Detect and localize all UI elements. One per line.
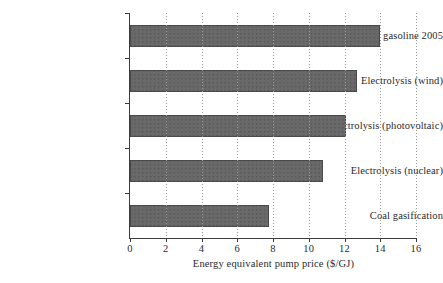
horizontal-bar-chart: 0246810121416 U.S. gasoline 2005Electrol… bbox=[0, 0, 443, 283]
x-tick-label-8: 8 bbox=[253, 243, 293, 254]
gridline-2 bbox=[166, 13, 167, 238]
x-tick-10 bbox=[309, 238, 310, 242]
gridline-6 bbox=[237, 13, 238, 238]
bar bbox=[130, 70, 357, 92]
plot-area bbox=[130, 13, 416, 238]
x-tick-8 bbox=[273, 238, 274, 242]
x-tick-4 bbox=[202, 238, 203, 242]
bar bbox=[130, 25, 380, 47]
x-tick-label-4: 4 bbox=[182, 243, 222, 254]
x-tick-12 bbox=[345, 238, 346, 242]
x-tick-label-16: 16 bbox=[396, 243, 436, 254]
gridline-14 bbox=[380, 13, 381, 238]
x-tick-label-0: 0 bbox=[110, 243, 150, 254]
x-tick-2 bbox=[166, 238, 167, 242]
bar bbox=[130, 160, 323, 182]
gridline-12 bbox=[345, 13, 346, 238]
x-tick-label-12: 12 bbox=[325, 243, 365, 254]
gridline-4 bbox=[202, 13, 203, 238]
gridline-10 bbox=[309, 13, 310, 238]
x-tick-16 bbox=[416, 238, 417, 242]
x-tick-label-14: 14 bbox=[360, 243, 400, 254]
gridline-8 bbox=[273, 13, 274, 238]
x-tick-label-6: 6 bbox=[217, 243, 257, 254]
x-axis-title: Energy equivalent pump price ($/GJ) bbox=[130, 258, 417, 269]
x-tick-label-2: 2 bbox=[146, 243, 186, 254]
x-tick-0 bbox=[130, 238, 131, 242]
bar bbox=[130, 205, 269, 227]
x-tick-14 bbox=[380, 238, 381, 242]
gridline-16 bbox=[416, 13, 417, 238]
x-tick-6 bbox=[237, 238, 238, 242]
x-tick-label-10: 10 bbox=[289, 243, 329, 254]
